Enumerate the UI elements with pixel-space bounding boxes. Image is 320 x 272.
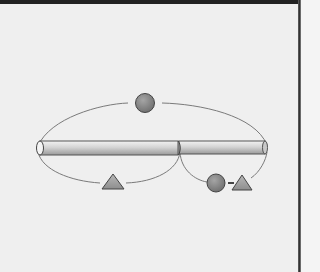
right-triangle-icon (232, 175, 252, 190)
right-circle-icon (207, 174, 225, 192)
rod-diagram (0, 0, 320, 272)
left-triangle-icon (102, 174, 124, 189)
top-circle-icon (136, 94, 155, 113)
rod (37, 141, 268, 155)
bottom-left-arc (38, 152, 180, 183)
